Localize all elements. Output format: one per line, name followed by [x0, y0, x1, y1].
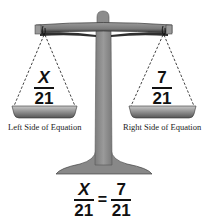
equation-left-fraction: X 21: [74, 181, 94, 218]
equation-right-denominator: 21: [112, 202, 131, 218]
equation-right-fraction: 7 21: [111, 181, 131, 218]
right-pan-fraction: 7 21: [152, 69, 172, 107]
left-denominator: 21: [35, 90, 54, 107]
right-numerator: 7: [157, 69, 166, 86]
scale-post: [56, 11, 152, 174]
right-denominator: 21: [153, 90, 172, 107]
equals-sign: =: [98, 191, 107, 209]
equation-right-numerator: 7: [116, 181, 125, 198]
equation-left-denominator: 21: [74, 202, 93, 218]
left-pan-fraction: X 21: [34, 69, 54, 107]
equation-left-numerator: X: [78, 181, 89, 198]
right-side-label: Right Side of Equation: [123, 122, 201, 132]
equation: X 21 = 7 21: [0, 181, 205, 218]
left-numerator: X: [38, 69, 49, 86]
left-side-label: Left Side of Equation: [8, 122, 81, 132]
